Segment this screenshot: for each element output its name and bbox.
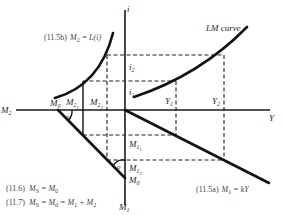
lm-curve-label: LM curve [205, 23, 241, 33]
label-m0-top: M0 [49, 98, 61, 109]
transactions-equation: (11.5a)M1 = kY [196, 185, 250, 195]
label-m0-bottom: M0 [128, 175, 140, 186]
angle-label-left: o [66, 113, 70, 121]
lm-curve [134, 27, 247, 97]
liquidity-equation: (11.5b)M2 = L(i) [44, 33, 101, 43]
label-i2: i2 [129, 62, 135, 73]
axis-label-y: Y [269, 113, 275, 123]
transactions-demand-line [125, 110, 269, 183]
label-m11: M11 [128, 139, 142, 152]
label-m12: M12 [128, 163, 143, 176]
label-m22: M22 [89, 97, 104, 110]
equation-11-6: (11.6)MS = M0 [6, 184, 58, 194]
label-y2: Y2 [212, 96, 220, 107]
lm-curve-diagram: o o i Y M2 M1 LM curve (11.5b)M2 = L(i) … [0, 0, 284, 215]
label-m21: M21 [65, 97, 79, 110]
label-i1: i1 [129, 87, 135, 98]
axis-label-i: i [127, 4, 130, 14]
equation-11-7: (11.7)MS = Md = M1 + M2 [6, 198, 96, 208]
angle-label-bottom: o [117, 163, 121, 171]
label-y1: Y1 [165, 96, 173, 107]
axis-label-m1: M1 [118, 202, 130, 213]
axis-label-m2: M2 [0, 105, 12, 116]
liquidity-preference-curve [55, 33, 113, 98]
